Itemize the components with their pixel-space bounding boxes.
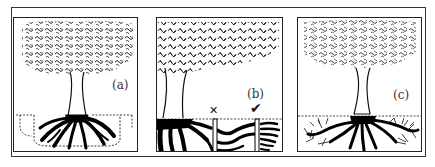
wrong-x-icon: ✕ xyxy=(209,104,218,117)
panel-c: (c) xyxy=(297,17,422,152)
tree-with-spreading-roots-illustration xyxy=(298,18,422,152)
panel-a: (a) xyxy=(13,17,138,152)
tree-with-vertical-barriers-illustration xyxy=(157,18,283,152)
panel-label-c: (c) xyxy=(393,88,409,102)
panel-label-b: (b) xyxy=(247,87,264,101)
correct-check-icon: ✔ xyxy=(250,100,262,116)
panel-b: (b) ✕ ✔ xyxy=(156,17,283,152)
panel-label-a: (a) xyxy=(112,78,129,92)
